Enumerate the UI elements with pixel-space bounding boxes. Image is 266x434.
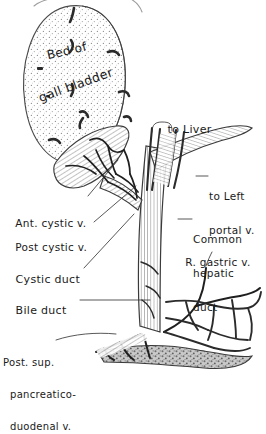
label-cystic-duct: Cystic duct [8,262,80,286]
label-post-cystic-text: Post cystic v. [15,241,87,253]
label-to-liver-text: to Liver [168,123,212,136]
label-pancreatico-line2: pancreatico- [3,390,76,401]
label-post-cystic-vein: Post cystic v. [8,231,87,254]
label-pancreatico-line3: duodenal v. [3,422,76,433]
label-ant-cystic-vein: Ant. cystic v. [8,207,86,230]
leader-cystic-duct [84,214,134,268]
label-to-liver: to Liver [160,112,212,136]
label-bile-duct: Bile duct [8,293,67,317]
label-common-hepatic-line3: duct [193,302,242,313]
label-common-hepatic-line1: Common [193,234,242,245]
label-pancreaticoduodenal-vein: Post. sup. pancreatico- duodenal v. [3,336,76,434]
label-to-left-portal-line1: to Left [209,191,255,202]
label-r-gastric-vein: R. gastric v. [178,246,251,269]
label-common-hepatic-line2: hepatic [193,268,242,279]
label-ant-cystic-text: Ant. cystic v. [15,217,86,229]
label-cystic-duct-text: Cystic duct [16,273,80,286]
label-pancreatico-line1: Post. sup. [3,358,76,369]
label-bile-duct-text: Bile duct [16,304,67,317]
label-r-gastric-text: R. gastric v. [185,256,250,268]
